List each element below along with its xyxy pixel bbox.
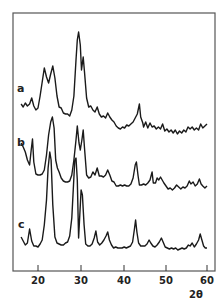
x-tick-label-60: 60 (200, 275, 214, 286)
series-label-b: b (17, 136, 25, 149)
x-axis-label: 2θ (189, 289, 203, 300)
xrd-chart: a b c 20 30 40 50 60 2θ (0, 0, 224, 302)
trace-c (21, 152, 207, 250)
x-tick-label-20: 20 (31, 275, 45, 286)
trace-a (21, 32, 207, 134)
x-tick-label-30: 30 (74, 275, 88, 286)
series-label-c: c (18, 218, 25, 231)
x-tick-label-40: 40 (117, 275, 131, 286)
x-axis: 20 30 40 50 60 2θ (31, 265, 214, 300)
x-tick-label-50: 50 (159, 275, 173, 286)
series-label-a: a (17, 82, 24, 95)
traces (21, 32, 207, 250)
